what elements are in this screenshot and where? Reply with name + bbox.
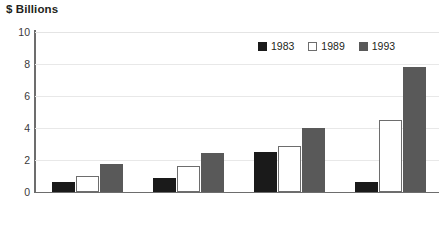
y-axis-tick-label: 2 bbox=[24, 154, 30, 166]
y-axis-tick-label: 6 bbox=[24, 90, 30, 102]
bar-video-1989 bbox=[379, 120, 403, 192]
bar-television-1989 bbox=[177, 166, 201, 192]
bar-theater-1993 bbox=[302, 128, 326, 192]
y-axis-tick-label: 4 bbox=[24, 122, 30, 134]
y-axis-tick-label: 8 bbox=[24, 58, 30, 70]
y-axis-tick-label: 0 bbox=[24, 186, 30, 198]
bar-television-1983 bbox=[153, 178, 177, 192]
bar-other-1983 bbox=[52, 182, 76, 192]
y-axis-tick-label: 10 bbox=[18, 26, 30, 38]
gridline-0 bbox=[35, 192, 439, 193]
bar-chart: $ Billions 1983 1989 1993 0246810OtherTe… bbox=[0, 0, 447, 226]
bar-group-video bbox=[355, 32, 427, 192]
bar-video-1993 bbox=[403, 67, 427, 192]
bar-group-television bbox=[153, 32, 225, 192]
bar-other-1993 bbox=[100, 164, 124, 192]
bar-television-1993 bbox=[201, 153, 225, 192]
bar-group-other bbox=[52, 32, 124, 192]
bar-theater-1983 bbox=[254, 152, 278, 192]
bar-theater-1989 bbox=[278, 146, 302, 192]
bar-group-theater bbox=[254, 32, 326, 192]
chart-title: $ Billions bbox=[6, 3, 58, 15]
bar-other-1989 bbox=[76, 176, 100, 192]
bar-video-1983 bbox=[355, 182, 379, 192]
plot-area: 0246810OtherTelevisionTheaterVideo bbox=[35, 32, 439, 192]
